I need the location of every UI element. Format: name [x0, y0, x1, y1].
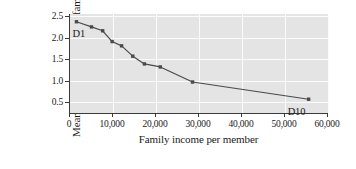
y-axis-tick — [65, 16, 69, 17]
x-axis-tick — [327, 113, 328, 117]
y-axis-tick-label: 1.0 — [52, 75, 63, 86]
data-series-line — [70, 14, 328, 113]
x-axis-tick-label: 20,000 — [143, 119, 168, 130]
data-point-marker — [131, 54, 134, 57]
data-point-marker — [143, 62, 146, 65]
plot-area — [69, 14, 328, 113]
y-axis-tick-label: 2.5 — [52, 11, 63, 22]
x-axis-tick-label: 50,000 — [272, 119, 297, 130]
data-point-marker — [90, 25, 93, 28]
x-axis-tick-label: 0 — [67, 119, 72, 130]
y-axis-tick-label: 0.5 — [52, 97, 63, 108]
data-point-marker — [159, 65, 162, 68]
y-axis-tick — [65, 59, 69, 60]
x-axis-tick — [198, 113, 199, 117]
x-axis-tick — [155, 113, 156, 117]
data-point-marker — [75, 20, 78, 23]
y-axis-tick — [65, 102, 69, 103]
x-axis-tick-label: 10,000 — [100, 119, 125, 130]
chart-figure: Mean number of children in family 010,00… — [0, 0, 356, 169]
y-axis-tick-label: 2.0 — [52, 32, 63, 43]
plot-inner — [70, 14, 328, 113]
y-axis-tick — [65, 81, 69, 82]
x-axis-tick-label: 60,000 — [315, 119, 340, 130]
x-axis-title: Family income per member — [69, 133, 328, 146]
y-axis-tick — [65, 38, 69, 39]
x-axis-tick — [284, 113, 285, 117]
series-polyline — [76, 22, 308, 99]
gridline-vertical — [328, 14, 329, 113]
data-point-annotation-d1: D1 — [72, 28, 85, 39]
x-axis-tick-label: 40,000 — [229, 119, 254, 130]
y-axis-tick-label: 1.5 — [52, 54, 63, 65]
x-axis-tick-label: 30,000 — [186, 119, 211, 130]
data-point-marker — [110, 40, 113, 43]
data-point-marker — [101, 29, 104, 32]
x-axis-tick — [241, 113, 242, 117]
x-axis-tick — [69, 113, 70, 117]
data-point-marker — [307, 98, 310, 101]
data-point-marker — [120, 44, 123, 47]
data-point-marker — [191, 80, 194, 83]
x-axis-tick — [112, 113, 113, 117]
data-point-annotation-d10: D10 — [288, 106, 306, 117]
